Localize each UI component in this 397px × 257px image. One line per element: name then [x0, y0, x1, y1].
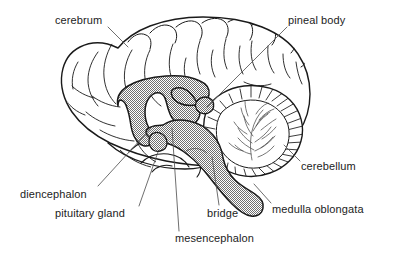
label-bridge: bridge	[207, 207, 238, 219]
pituitary-gland-structure	[149, 133, 167, 152]
label-diencephalon: diencephalon	[20, 188, 87, 200]
pineal-body-structure	[196, 97, 214, 114]
leader-pituitary-gland	[139, 152, 158, 206]
label-pineal-body: pineal body	[288, 14, 345, 26]
label-cerebellum: cerebellum	[301, 160, 356, 172]
label-mesencephalon: mesencephalon	[175, 232, 254, 244]
label-medulla-oblongata: medulla oblongata	[272, 203, 364, 215]
brain-diagram: cerebrum pineal body cerebellum medulla …	[0, 0, 397, 257]
leader-cerebrum	[108, 27, 128, 47]
label-cerebrum: cerebrum	[55, 14, 102, 26]
label-pituitary-gland: pituitary gland	[55, 207, 125, 219]
